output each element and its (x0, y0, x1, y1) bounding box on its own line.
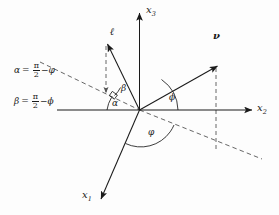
equation-beta-minus: − (40, 97, 48, 106)
equation-beta-equals: = (21, 97, 29, 106)
angle-varphi-label: φ (148, 128, 154, 137)
vector-l-label: ℓ (110, 27, 114, 37)
x1-axis-label: x1 (82, 190, 92, 203)
equation-beta-rhs: ϕ (48, 97, 54, 106)
angle-beta-label: β (121, 84, 126, 93)
vector-nu-label: ν (213, 31, 220, 41)
equation-alpha-denominator: 2 (33, 71, 40, 79)
arc-beta (115, 88, 121, 96)
equation-beta-denominator: 2 (32, 102, 39, 110)
equation-beta-lhs: β (14, 97, 19, 106)
equation-alpha-minus: − (41, 66, 49, 75)
equation-beta-numerator: π (32, 93, 39, 101)
x3-axis-label: x3 (146, 5, 156, 18)
vector-nu-line (140, 66, 218, 110)
equation-alpha: α = π 2 − φ (14, 62, 55, 79)
equation-alpha-fraction: π 2 (33, 62, 40, 79)
vector-diagram: x3 x2 x1 ℓ ν α β ϕ φ α = π 2 − φ β = π 2… (0, 0, 279, 215)
equation-beta: β = π 2 − ϕ (14, 93, 54, 110)
equation-alpha-lhs: α (14, 66, 20, 75)
equation-alpha-equals: = (22, 66, 30, 75)
equation-beta-fraction: π 2 (32, 93, 39, 110)
x2-axis-label: x2 (257, 103, 267, 116)
arc-alpha (107, 98, 112, 111)
angle-alpha-label: α (112, 99, 118, 108)
x1-axis-line (101, 110, 140, 199)
equation-alpha-rhs: φ (48, 66, 54, 75)
equation-alpha-numerator: π (33, 62, 40, 70)
angle-phi-label: ϕ (169, 93, 175, 102)
